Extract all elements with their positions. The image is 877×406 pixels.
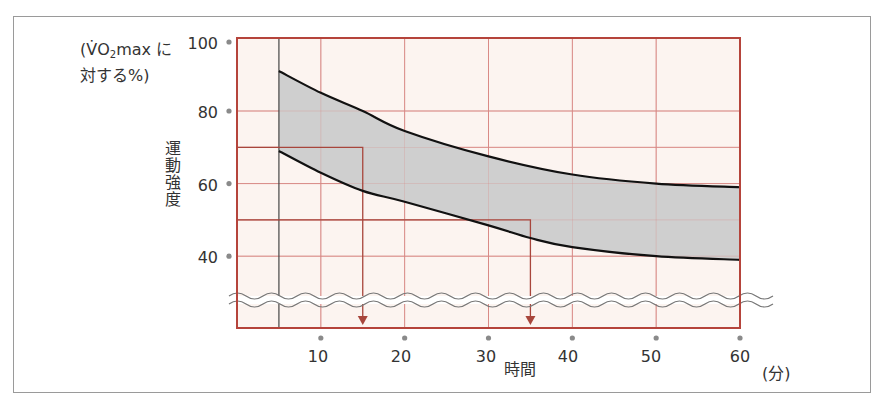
y-tick-100: 100 xyxy=(178,34,218,53)
y-tick-dot xyxy=(226,254,231,259)
x-tick-dot xyxy=(654,335,659,340)
y-tick-60: 60 xyxy=(178,176,218,195)
x-tick-10: 10 xyxy=(298,347,338,366)
y-tick-dot xyxy=(226,181,231,186)
x-tick-60: 60 xyxy=(720,347,760,366)
x-tick-dot xyxy=(737,335,742,340)
y-unit-label-line1: (V̇O2max に xyxy=(80,36,172,60)
x-axis-unit: (分) xyxy=(762,360,790,384)
chart-plot xyxy=(0,0,877,406)
x-tick-dot xyxy=(570,335,575,340)
y-unit-label-line2: 対する%) xyxy=(80,62,149,86)
x-tick-dot xyxy=(318,335,323,340)
y-axis-title: 運動強度 xyxy=(165,140,183,208)
y-tick-dot xyxy=(226,108,231,113)
x-tick-40: 40 xyxy=(548,347,588,366)
x-tick-20: 20 xyxy=(381,347,421,366)
x-tick-dot xyxy=(402,335,407,340)
x-tick-30: 30 xyxy=(466,347,506,366)
y-tick-40: 40 xyxy=(178,248,218,267)
x-axis-title: 時間 xyxy=(504,356,536,380)
y-tick-80: 80 xyxy=(178,103,218,122)
y-tick-dot xyxy=(226,39,231,44)
x-tick-dot xyxy=(486,335,491,340)
x-tick-50: 50 xyxy=(631,347,671,366)
